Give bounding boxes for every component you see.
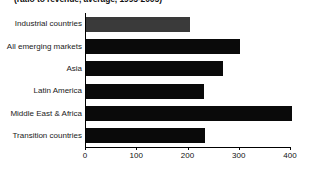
- x-axis-tick-label: 400: [283, 152, 296, 160]
- category-label: Middle East & Africa: [10, 110, 82, 118]
- bar-chart-figure: (ratio to revenue, average, 1995-2005) I…: [0, 0, 310, 174]
- bar-row: [85, 61, 290, 76]
- plot-area: [85, 13, 290, 147]
- x-axis-tick: [290, 147, 291, 150]
- category-label: Transition countries: [12, 132, 82, 140]
- bar: [85, 106, 292, 121]
- x-axis-tick-label: 100: [130, 152, 143, 160]
- bar: [85, 128, 205, 143]
- x-axis-tick: [239, 147, 240, 150]
- x-axis-tick: [136, 147, 137, 150]
- bar-row: [85, 128, 290, 143]
- bar: [85, 17, 190, 32]
- x-axis-tick-label: 300: [232, 152, 245, 160]
- bar: [85, 39, 240, 54]
- chart-subtitle: (ratio to revenue, average, 1995-2005): [14, 0, 162, 4]
- x-axis-tick: [188, 147, 189, 150]
- category-label: Latin America: [34, 87, 82, 95]
- category-label: Asia: [66, 65, 82, 73]
- bar: [85, 61, 223, 76]
- category-label: All emerging markets: [7, 43, 82, 51]
- category-axis-labels: Industrial countriesAll emerging markets…: [0, 13, 82, 147]
- x-axis-tick-label: 200: [181, 152, 194, 160]
- x-axis-tick: [85, 147, 86, 150]
- bar-row: [85, 39, 290, 54]
- bar-row: [85, 84, 290, 99]
- bar-row: [85, 17, 290, 32]
- x-axis-tick-label: 0: [83, 152, 87, 160]
- bar-row: [85, 106, 290, 121]
- bar: [85, 84, 204, 99]
- y-axis-line: [85, 13, 86, 148]
- category-label: Industrial countries: [15, 20, 82, 28]
